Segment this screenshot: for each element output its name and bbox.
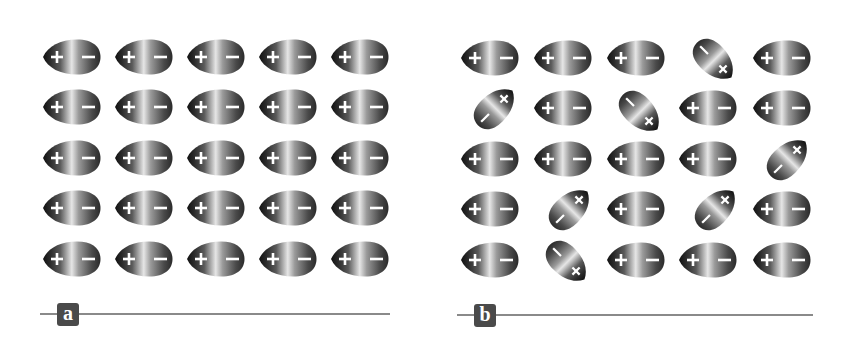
dipole-molecule-shape [534,90,592,126]
dipole-molecule-shape [753,191,811,227]
dipole-molecule-tilted [612,84,668,140]
panel-b-label: b [474,304,496,327]
dipole-molecule-aligned [753,40,811,76]
dipole-molecule-shape [688,181,744,237]
dipole-molecule-aligned [461,242,519,278]
dipole-molecule-shape [534,40,592,76]
panel-b-baseline [457,314,813,316]
dipole-molecule-shape [760,131,816,187]
dipole-molecule-shape [679,141,737,177]
dipole-molecule-aligned [679,141,737,177]
dipole-molecule-aligned [461,40,519,76]
dipole-molecule-tilted [688,181,744,237]
dipole-molecule-shape [461,40,519,76]
dipole-molecule-shape [461,191,519,227]
dipole-molecule-aligned [534,90,592,126]
dipole-molecule-shape [461,141,519,177]
panel-a-baseline [40,313,390,315]
dipole-molecule-aligned [534,141,592,177]
dipole-molecule-aligned [753,191,811,227]
dipole-molecule-tilted [467,80,523,136]
dipole-molecule-shape [607,242,665,278]
dipole-molecule-aligned [461,191,519,227]
dipole-molecule-aligned [607,40,665,76]
dipole-molecule-shape [607,191,665,227]
dipole-molecule-tilted [686,32,742,88]
dipole-molecule-shape [461,242,519,278]
dipole-molecule-shape [753,242,811,278]
panel-b-random-dipoles [0,0,850,343]
dipole-molecule-aligned [753,90,811,126]
dipole-molecule-shape [679,90,737,126]
dipole-molecule-aligned [461,141,519,177]
dipole-molecule-shape [534,141,592,177]
dipole-molecule-shape [607,40,665,76]
dipole-molecule-tilted [539,234,595,290]
dipole-molecule-tilted [542,181,598,237]
dipole-molecule-shape [542,181,598,237]
dipole-molecule-aligned [679,242,737,278]
dipole-molecule-shape [753,40,811,76]
dipole-molecule-aligned [607,141,665,177]
dipole-molecule-aligned [607,242,665,278]
dipole-molecule-aligned [534,40,592,76]
dipole-molecule-aligned [753,242,811,278]
dipole-molecule-shape [467,80,523,136]
dipole-molecule-shape [753,90,811,126]
dipole-molecule-shape [686,32,742,88]
dipole-molecule-shape [539,234,595,290]
dipole-molecule-tilted [760,131,816,187]
dipole-molecule-aligned [679,90,737,126]
dipole-molecule-shape [612,84,668,140]
panel-a-label: a [57,303,79,326]
dipole-molecule-aligned [607,191,665,227]
dipole-molecule-shape [679,242,737,278]
dipole-molecule-shape [607,141,665,177]
